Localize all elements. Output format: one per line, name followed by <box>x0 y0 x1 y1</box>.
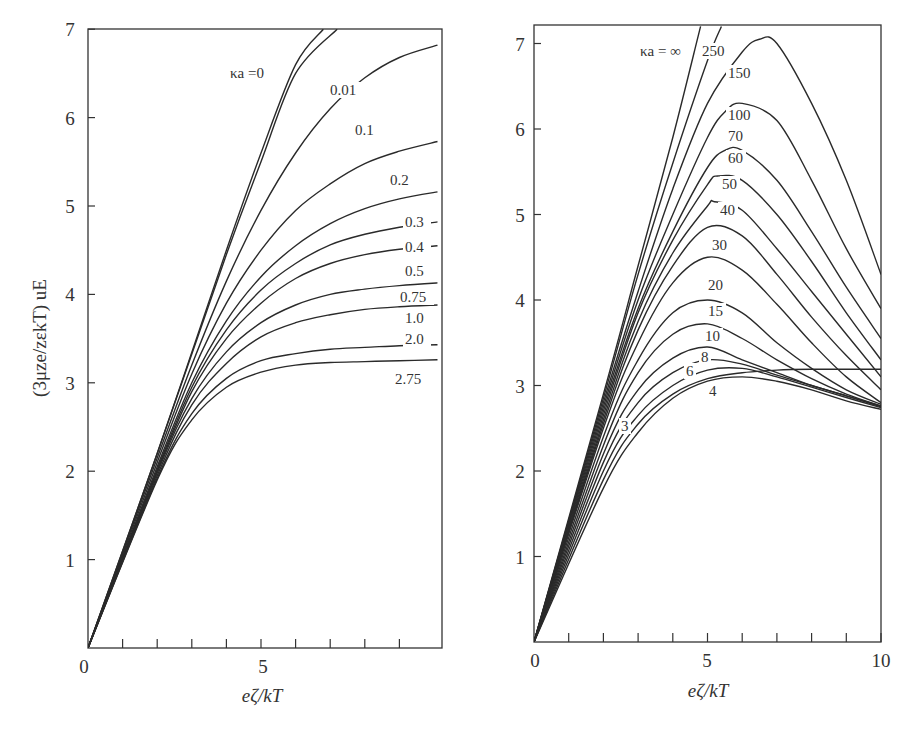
right-curve-label: 40 <box>720 202 735 218</box>
left-curve-5 <box>88 222 438 648</box>
right-x-tick-10: 10 <box>872 650 891 671</box>
left-curve-label: 0.1 <box>355 122 374 138</box>
left-y-tick-label: 1 <box>65 550 75 571</box>
left-curve-3 <box>88 142 438 649</box>
right-y-tick-label: 6 <box>515 119 525 140</box>
left-x-axis-label: eζ/kT <box>242 685 284 706</box>
right-curve-label: 150 <box>728 65 751 81</box>
right-x-axis-label: eζ/kT <box>688 680 730 701</box>
left-y-tick-label: 6 <box>65 108 75 129</box>
right-x-tick-5: 5 <box>702 650 712 671</box>
right-curve-0 <box>534 26 701 642</box>
right-curve-label: 8 <box>701 349 709 365</box>
right-y-tick-label: 2 <box>515 461 525 482</box>
left-curve-label: 0.01 <box>330 82 356 98</box>
right-curve-5 <box>534 175 881 642</box>
left-curve-label: 0.2 <box>390 172 409 188</box>
right-chart: 1234567 κa = ∞25015010070605040302015108… <box>515 25 890 701</box>
left-chart: 1234567 κa =00.010.10.20.30.40.50.751.02… <box>29 19 442 706</box>
right-curve-label: 100 <box>728 107 751 123</box>
right-curve-label: 15 <box>708 303 723 319</box>
right-curve-label: κa = ∞ <box>640 43 681 59</box>
right-curve-label: 4 <box>709 383 717 399</box>
left-y-tick-label: 4 <box>65 284 75 305</box>
right-curve-label: 60 <box>728 150 743 166</box>
left-curves <box>88 29 438 648</box>
right-y-ticks: 1234567 <box>515 34 541 568</box>
right-curve-6 <box>534 200 881 642</box>
left-curve-6 <box>88 246 438 648</box>
right-y-tick-label: 7 <box>515 34 525 55</box>
left-curve-label: 0.5 <box>405 263 424 279</box>
left-curve-label: 0.3 <box>405 214 424 230</box>
right-y-tick-label: 1 <box>515 547 525 568</box>
figure-canvas: 1234567 κa =00.010.10.20.30.40.50.751.02… <box>0 0 909 731</box>
right-curve-label: 6 <box>686 363 694 379</box>
left-x-tick-5: 5 <box>258 656 268 677</box>
left-y-tick-label: 2 <box>65 461 75 482</box>
left-curve-label: κa =0 <box>230 65 264 81</box>
left-curve-label: 2.0 <box>405 331 424 347</box>
right-x-tick-0: 0 <box>530 650 540 671</box>
right-curve-label: 70 <box>728 128 743 144</box>
left-x-tick-0: 0 <box>79 656 89 677</box>
left-curve-7 <box>88 283 438 648</box>
right-curve-label: 250 <box>702 43 725 59</box>
right-y-tick-label: 5 <box>515 205 525 226</box>
left-curve-9 <box>88 345 438 648</box>
right-y-tick-label: 3 <box>515 376 525 397</box>
left-y-tick-label: 3 <box>65 373 75 394</box>
left-y-axis-label: (3μze/zεkT) uE <box>29 279 51 397</box>
left-x-ticks <box>123 639 400 648</box>
right-curve-labels: κa = ∞25015010070605040302015108643 <box>619 43 754 434</box>
right-curve-label: 20 <box>708 277 723 293</box>
left-curve-label: 2.75 <box>395 371 421 387</box>
right-y-tick-label: 4 <box>515 290 525 311</box>
left-curve-label: 0.75 <box>400 289 426 305</box>
right-curve-15 <box>534 377 881 642</box>
right-x-ticks <box>569 633 881 642</box>
left-curve-8 <box>88 305 438 648</box>
right-curve-label: 50 <box>722 176 737 192</box>
left-y-ticks: 1234567 <box>65 19 95 570</box>
left-curve-label: 0.4 <box>405 239 424 255</box>
left-y-tick-label: 7 <box>65 19 75 40</box>
right-curve-label: 10 <box>705 328 720 344</box>
left-y-tick-label: 5 <box>65 196 75 217</box>
right-curve-label: 3 <box>621 418 629 434</box>
right-curve-10 <box>534 324 881 642</box>
right-curve-label: 30 <box>712 237 727 253</box>
left-plot-frame <box>88 29 442 648</box>
left-curve-4 <box>88 192 438 648</box>
left-curve-label: 1.0 <box>405 310 424 326</box>
